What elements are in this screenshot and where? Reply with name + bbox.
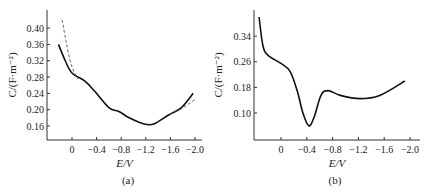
y-tick-label: 0.24 <box>27 88 45 99</box>
x-tick-label: −1.2 <box>349 144 367 155</box>
y-tick-label: 0.10 <box>234 108 252 119</box>
panel-label: (b) <box>329 174 342 187</box>
x-tick-label: −1.6 <box>161 144 179 155</box>
x-axis-label: E/V <box>328 157 347 169</box>
y-tick-label: 0.20 <box>27 104 45 115</box>
x-tick-label: −1.6 <box>375 144 393 155</box>
y-tick-label: 0.40 <box>27 23 45 34</box>
figure: 0−0.4−0.8−1.2−1.6−2.00.160.200.240.280.3… <box>0 0 427 193</box>
x-tick-label: 0 <box>279 144 284 155</box>
x-tick-label: −0.4 <box>88 144 106 155</box>
y-tick-label: 0.36 <box>27 39 45 50</box>
x-tick-label: −2.0 <box>401 144 419 155</box>
y-tick-label: 0.26 <box>234 56 252 67</box>
x-tick-label: 0 <box>70 144 75 155</box>
y-tick-label: 0.34 <box>234 31 252 42</box>
x-tick-label: −1.2 <box>137 144 155 155</box>
y-tick-label: 0.28 <box>27 72 45 83</box>
y-tick-label: 0.16 <box>27 121 45 132</box>
x-axis-label: E/V <box>115 157 134 169</box>
series-line-measured <box>259 17 405 126</box>
chart-panel-b: 0−0.4−0.8−1.2−1.6−2.00.100.180.260.34E/V… <box>212 10 420 187</box>
y-tick-label: 0.32 <box>27 55 45 66</box>
x-tick-label: −0.8 <box>324 144 342 155</box>
y-axis-label: C/(F·m⁻²) <box>6 52 19 97</box>
panel-label: (a) <box>122 174 135 187</box>
chart-panel-a: 0−0.4−0.8−1.2−1.6−2.00.160.200.240.280.3… <box>6 10 204 187</box>
x-tick-label: −2.0 <box>186 144 204 155</box>
x-tick-label: −0.8 <box>112 144 130 155</box>
y-tick-label: 0.18 <box>234 82 252 93</box>
x-tick-label: −0.4 <box>298 144 316 155</box>
y-axis-label: C/(F·m⁻²) <box>212 52 225 97</box>
